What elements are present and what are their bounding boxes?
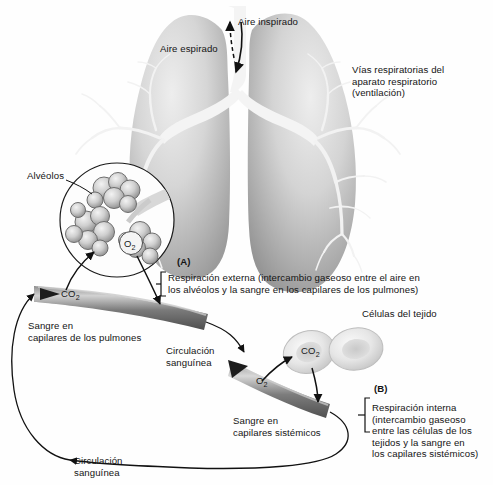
label-vias-respiratorias: Vías respiratorias del aparato respirato… — [352, 64, 444, 99]
co2-exchange-arrow-systemic — [312, 368, 318, 402]
bracket-internal-respiration — [358, 398, 370, 432]
label-celulas-del-tejido: Células del tejido — [362, 308, 437, 320]
gas-o2-alveolar-sub: 2 — [132, 243, 136, 252]
gas-co2-tissue-text: CO — [301, 345, 316, 356]
gas-co2-tissue-sub: 2 — [316, 350, 320, 359]
label-sangre-capilares-pulmones: Sangre en capilares de los pulmones — [28, 320, 141, 343]
label-aire-inspirado: Aire inspirado — [238, 16, 298, 28]
gas-o2-systemic-text: O — [256, 375, 264, 386]
label-respiracion-externa: Respiración externa (intercambio gaseoso… — [168, 272, 420, 295]
bracket-external-respiration — [156, 272, 166, 296]
expired-air-arrow — [230, 22, 234, 58]
marker-b: (B) — [374, 383, 388, 395]
gas-label-co2-tissue: CO2 — [301, 345, 320, 359]
gas-o2-systemic-sub: 2 — [264, 380, 268, 389]
tissue-cell-icon — [278, 324, 385, 379]
label-sangre-capilares-sistemicos: Sangre en capilares sistémicos — [233, 415, 321, 438]
label-circulacion-sanguinea-superior: Circulación sanguínea — [166, 345, 215, 368]
label-aire-espirado: Aire espirado — [160, 43, 218, 55]
label-circulacion-sanguinea-inferior: Circulación sanguínea — [74, 455, 123, 478]
gas-label-o2-systemic: O2 — [256, 375, 268, 389]
gas-co2-pulmonary-text: CO — [61, 288, 76, 299]
marker-a: (A) — [177, 256, 191, 268]
gas-o2-alveolar-text: O — [124, 238, 132, 249]
gas-label-co2-pulmonary: CO2 — [61, 288, 80, 302]
label-alveolos: Alvéolos — [27, 170, 64, 182]
respiratory-gas-exchange-figure: Aire inspirado Aire espirado Vías respir… — [0, 0, 493, 485]
label-respiracion-interna: Respiración interna (intercambio gaseoso… — [372, 402, 478, 460]
gas-label-o2-alveolar: O2 — [124, 238, 136, 252]
gas-co2-pulmonary-sub: 2 — [76, 293, 80, 302]
